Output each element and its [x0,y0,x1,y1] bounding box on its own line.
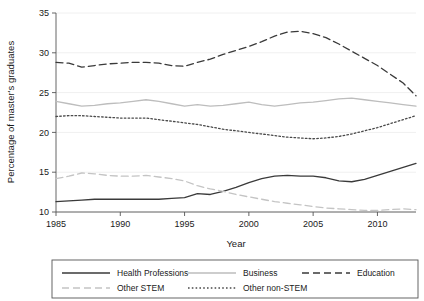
x-tick-label: 2000 [239,219,259,229]
series-line-other-stem [56,173,416,210]
data-series-group [56,31,416,210]
series-line-business [56,98,416,106]
y-axis-tick-labels: 101520253035 [39,8,49,217]
y-tick-label: 15 [39,167,49,177]
line-chart-svg: 101520253035 198519901995200020052010 Ye… [0,0,424,301]
x-axis-tick-labels: 198519901995200020052010 [46,219,387,229]
x-tick-label: 1995 [175,219,195,229]
x-tick-label: 2005 [303,219,323,229]
y-tick-label: 20 [39,128,49,138]
legend-label-business: Business [243,268,278,278]
gridlines [56,13,416,212]
legend-label-other-non-stem: Other non-STEM [243,283,307,293]
x-axis-title: Year [226,238,245,249]
chart-legend: Health ProfessionsBusinessEducationOther… [52,260,418,298]
y-tick-label: 30 [39,48,49,58]
series-line-health-professions [56,163,416,201]
x-tick-label: 1985 [46,219,66,229]
legend-box [52,260,418,298]
series-line-other-non-stem [56,116,416,139]
y-axis-ticks [52,13,56,212]
legend-label-other-stem: Other STEM [117,283,164,293]
x-axis-ticks [56,212,377,216]
y-tick-label: 35 [39,8,49,18]
y-axis-title: Percentage of master's graduates [5,41,16,184]
x-tick-label: 1990 [110,219,130,229]
y-tick-label: 25 [39,88,49,98]
y-tick-label: 10 [39,207,49,217]
legend-label-education: Education [357,268,395,278]
legend-label-health-professions: Health Professions [117,268,188,278]
series-line-education [56,31,416,95]
x-tick-label: 2010 [367,219,387,229]
chart-figure: 101520253035 198519901995200020052010 Ye… [0,0,424,301]
